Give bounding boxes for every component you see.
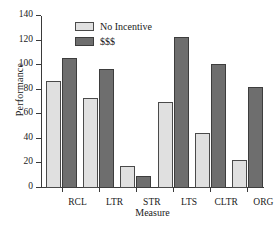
y-axis-tick-label: 40	[24, 132, 34, 143]
y-axis-tick: 20	[36, 162, 41, 163]
y-axis-tick-label: 140	[19, 9, 33, 20]
x-axis-tick: ORG	[247, 188, 248, 192]
bar	[62, 58, 77, 188]
x-axis-tick: STR	[136, 188, 137, 192]
y-axis-tick-label: 80	[24, 83, 34, 94]
y-axis-line	[41, 16, 42, 188]
y-axis-tick-label: 20	[24, 156, 34, 167]
dark-gray-swatch	[75, 37, 94, 46]
bar	[211, 64, 226, 188]
bar	[195, 133, 210, 188]
bar	[120, 166, 135, 188]
chart-legend: No Incentive$$$	[75, 20, 152, 50]
bar	[248, 87, 263, 188]
y-axis-tick: 80	[36, 89, 41, 90]
y-axis-tick-label: 100	[19, 58, 33, 69]
legend-item: No Incentive	[75, 20, 152, 33]
x-axis-tick: CLTR	[210, 188, 211, 192]
legend-item: $$$	[75, 35, 152, 48]
x-axis-title: Measure	[41, 207, 264, 218]
bar	[174, 37, 189, 188]
y-axis-tick-label: 120	[19, 34, 33, 45]
x-axis-tick: RCL	[62, 188, 63, 192]
y-axis-tick: 40	[36, 138, 41, 139]
bar-chart-figure: Performance 020406080100120140 RCLLTRSTR…	[0, 0, 276, 225]
x-axis-tick: LTR	[99, 188, 100, 192]
y-axis-tick: 0	[36, 187, 41, 188]
y-axis-tick: 100	[36, 64, 41, 65]
y-axis-tick-label: 60	[24, 107, 34, 118]
y-axis-tick: 120	[36, 40, 41, 41]
bar	[46, 81, 61, 188]
bar	[99, 69, 114, 188]
legend-item-label: $$$	[100, 36, 115, 47]
y-axis-tick: 60	[36, 113, 41, 114]
y-axis-tick: 140	[36, 15, 41, 16]
bar	[158, 102, 173, 188]
y-axis-tick-label: 0	[28, 181, 33, 192]
light-gray-swatch	[75, 22, 94, 31]
x-axis-tick: LTS	[173, 188, 174, 192]
legend-item-label: No Incentive	[100, 21, 152, 32]
bar	[232, 160, 247, 188]
bar	[83, 98, 98, 188]
bar	[136, 176, 151, 188]
